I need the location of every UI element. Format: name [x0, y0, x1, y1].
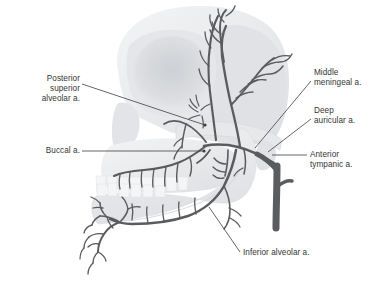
- label-deep-auricular: Deep auricular a.: [314, 106, 382, 126]
- mylohyoid-branch-3: [230, 218, 240, 227]
- artery-trunk: [276, 166, 277, 228]
- leader-inferior-alveolar: [209, 207, 240, 252]
- label-inferior-alveolar: Inferior alveolar a.: [243, 248, 353, 258]
- label-buccal: Buccal a.: [2, 146, 80, 156]
- skull-illustration: [92, 6, 289, 224]
- leader-dot-buccal: [202, 149, 205, 152]
- leader-dot-psa: [203, 123, 206, 126]
- mylohyoid-branch-2: [229, 208, 241, 216]
- label-middle-meningeal: Middle meningeal a.: [314, 68, 382, 88]
- psa-branch-4: [141, 170, 142, 187]
- psa-branch-5: [129, 172, 130, 188]
- artery-illustration: [0, 0, 383, 287]
- label-anterior-tympanic: Anterior tympanic a.: [310, 150, 382, 170]
- mental-trunk: [98, 222, 120, 252]
- label-posterior-superior-alveolar: Posterior superior alveolar a.: [2, 74, 80, 105]
